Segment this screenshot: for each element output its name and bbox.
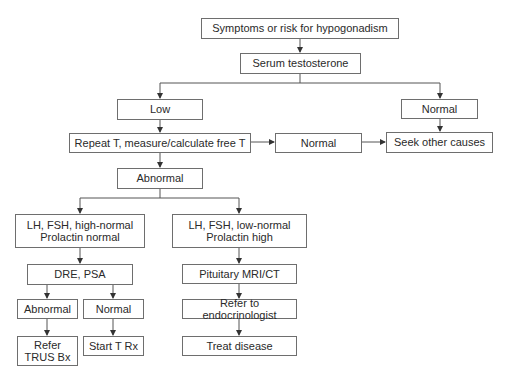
node-lh-fsh-low-normal: LH, FSH, low-normal Prolactin high [172, 214, 307, 248]
node-seek-other-causes: Seek other causes [386, 132, 493, 153]
node-pituitary-mri: Pituitary MRI/CT [182, 264, 297, 284]
node-dre-psa: DRE, PSA [27, 264, 133, 285]
node-refer-endocrinologist: Refer to endocrinologist [182, 299, 297, 319]
node-treat-disease: Treat disease [182, 336, 297, 356]
node-start-t-rx: Start T Rx [83, 336, 144, 356]
node-symptoms: Symptoms or risk for hypogonadism [201, 18, 399, 39]
node-repeat-t: Repeat T, measure/calculate free T [69, 133, 251, 153]
node-abnormal: Abnormal [117, 168, 203, 189]
node-normal-mid: Normal [275, 133, 362, 153]
node-refer-trus-bx: Refer TRUS Bx [17, 336, 78, 366]
node-lh-fsh-high-normal: LH, FSH, high-normal Prolactin normal [15, 214, 145, 248]
node-abnormal-dre: Abnormal [17, 299, 78, 319]
node-serum-testosterone: Serum testosterone [240, 53, 361, 74]
node-normal-top: Normal [401, 99, 478, 119]
node-low: Low [117, 99, 203, 120]
node-normal-dre: Normal [83, 299, 144, 319]
